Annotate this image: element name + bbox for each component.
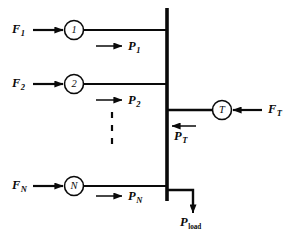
feeder-1-input-label: F1 xyxy=(12,23,25,36)
diagram-canvas xyxy=(0,0,296,235)
load-branch-stub xyxy=(167,190,193,206)
one-line-diagram: F1 1 P1 F2 2 P2 FN N PN T FT PT Pload xyxy=(0,0,296,235)
tie-line-t-label: T xyxy=(212,105,232,116)
feeder-2-unit-label: 2 xyxy=(64,79,84,90)
load-flow-label: Pload xyxy=(180,216,201,229)
feeder-2-flow-label: P2 xyxy=(128,94,140,107)
feeder-n-flow-label: PN xyxy=(128,190,142,203)
tie-line-source-label: FT xyxy=(268,103,282,116)
feeder-n-input-label: FN xyxy=(12,179,26,192)
feeder-n-unit-label: N xyxy=(64,181,84,192)
feeder-1-flow-label: P1 xyxy=(128,40,140,53)
feeder-2-input-label: F2 xyxy=(12,77,25,90)
tie-line-flow-label: PT xyxy=(174,130,187,143)
feeder-1-unit-label: 1 xyxy=(64,25,84,36)
